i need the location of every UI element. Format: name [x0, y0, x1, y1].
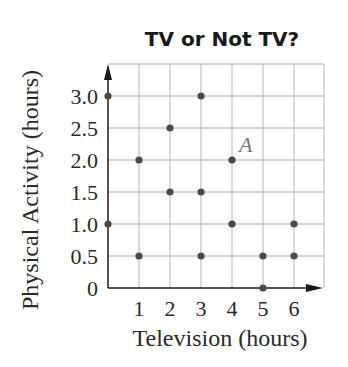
data-point [166, 124, 173, 131]
y-tick-label: 1.0 [71, 212, 99, 237]
scatter-chart: TV or Not TV? 123456 00.51.01.52.02.53.0… [0, 0, 348, 367]
data-point [197, 252, 204, 259]
x-tick-label: 3 [196, 296, 207, 321]
x-tick-label: 6 [289, 296, 300, 321]
data-point [135, 156, 142, 163]
data-point [228, 156, 235, 163]
y-axis-label: Physical Activity (hours) [17, 70, 43, 310]
data-point [290, 220, 297, 227]
data-point [166, 188, 173, 195]
x-tick-label: 1 [134, 296, 145, 321]
x-tick-label: 4 [227, 296, 238, 321]
data-point [104, 220, 111, 227]
x-tick-labels: 123456 [134, 296, 300, 321]
data-point [290, 252, 297, 259]
data-point [197, 188, 204, 195]
data-point [197, 92, 204, 99]
data-point [259, 252, 266, 259]
x-tick-label: 2 [165, 296, 176, 321]
data-point [228, 220, 235, 227]
chart-title: TV or Not TV? [145, 27, 299, 51]
y-tick-label: 1.5 [71, 180, 99, 205]
annotations: A [237, 132, 253, 157]
data-point [259, 284, 266, 291]
data-point [135, 252, 142, 259]
x-tick-label: 5 [258, 296, 269, 321]
y-tick-labels: 00.51.01.52.02.53.0 [71, 84, 99, 301]
y-tick-label: 2.5 [71, 116, 99, 141]
x-axis-label: Television (hours) [133, 325, 308, 351]
y-tick-label: 0.5 [71, 244, 99, 269]
y-tick-label: 2.0 [71, 148, 99, 173]
y-axis-arrow-icon [104, 64, 112, 80]
data-point [104, 92, 111, 99]
x-axis-arrow-icon [306, 284, 323, 292]
point-label-annotation: A [237, 132, 253, 157]
y-tick-label: 3.0 [71, 84, 99, 109]
y-tick-label: 0 [87, 276, 98, 301]
